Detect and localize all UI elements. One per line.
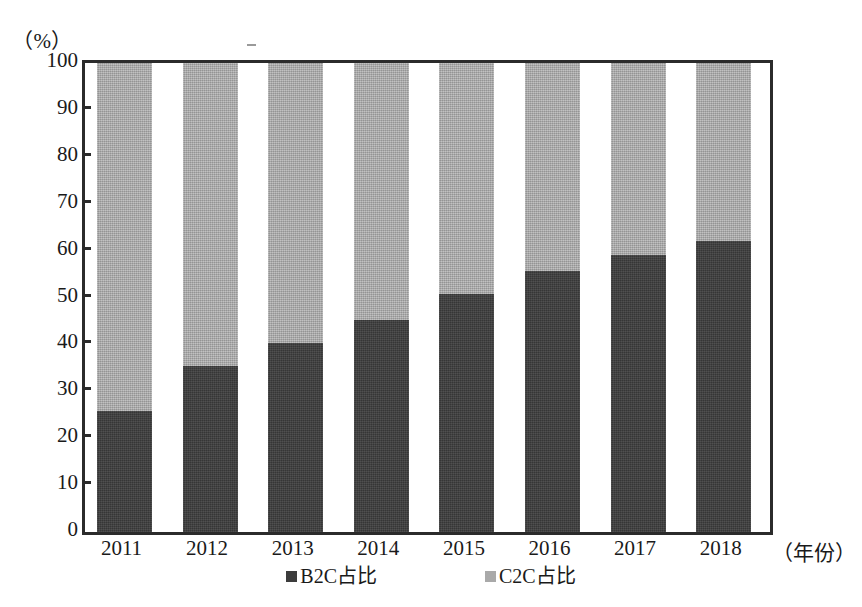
y-tick-mark — [82, 434, 91, 437]
y-tick-label: 50 — [16, 282, 78, 307]
y-tick-label: 60 — [16, 235, 78, 260]
bar-2017[interactable] — [611, 63, 666, 532]
y-axis-ticks: 0102030405060708090100 — [8, 0, 78, 607]
plot-area — [82, 60, 773, 535]
bar-segment-b2c[interactable] — [611, 255, 666, 532]
dark-square-swatch-icon — [286, 571, 297, 582]
legend-item-c2c[interactable]: C2C占比 — [485, 566, 576, 586]
x-axis-unit-label: （年份） — [772, 536, 856, 566]
bar-2013[interactable] — [268, 63, 323, 532]
y-tick-label: 80 — [16, 141, 78, 166]
light-square-swatch-icon — [485, 571, 496, 582]
bar-segment-c2c[interactable] — [696, 63, 751, 241]
y-tick-mark — [82, 247, 91, 250]
legend-label: B2C占比 — [300, 566, 377, 586]
y-tick-mark — [82, 200, 91, 203]
y-tick-mark — [82, 106, 91, 109]
bar-2015[interactable] — [439, 63, 494, 532]
bar-segment-b2c[interactable] — [183, 366, 238, 532]
y-tick-mark — [82, 294, 91, 297]
bar-segment-c2c[interactable] — [525, 63, 580, 271]
bar-segment-c2c[interactable] — [268, 63, 323, 343]
y-tick-label: 20 — [16, 423, 78, 448]
y-tick-label: 40 — [16, 329, 78, 354]
y-tick-label: 90 — [16, 94, 78, 119]
bar-2016[interactable] — [525, 63, 580, 532]
bar-2018[interactable] — [696, 63, 751, 532]
legend-item-b2c[interactable]: B2C占比 — [286, 566, 377, 586]
y-tick-label: 30 — [16, 376, 78, 401]
bar-2014[interactable] — [354, 63, 409, 532]
bar-segment-b2c[interactable] — [268, 343, 323, 532]
bar-2011[interactable] — [97, 63, 152, 532]
x-tick-label-2018: 2018 — [666, 536, 776, 561]
y-tick-mark — [82, 481, 91, 484]
y-tick-mark — [82, 153, 91, 156]
bar-2012[interactable] — [183, 63, 238, 532]
bar-segment-b2c[interactable] — [439, 294, 494, 532]
stacked-bar-chart: （%） 0102030405060708090100 2011201220132… — [0, 0, 862, 607]
stray-artifact-mark — [247, 44, 256, 46]
bar-segment-b2c[interactable] — [696, 241, 751, 532]
legend-label: C2C占比 — [499, 566, 576, 586]
y-tick-mark — [82, 340, 91, 343]
bar-segment-c2c[interactable] — [183, 63, 238, 366]
y-tick-label: 70 — [16, 188, 78, 213]
y-tick-label: 10 — [16, 470, 78, 495]
bar-segment-b2c[interactable] — [97, 411, 152, 532]
y-tick-mark — [82, 387, 91, 390]
chart-legend: B2C占比C2C占比 — [0, 566, 862, 586]
y-tick-label: 100 — [16, 48, 78, 73]
bar-segment-c2c[interactable] — [354, 63, 409, 320]
bar-segment-c2c[interactable] — [439, 63, 494, 294]
bar-segment-b2c[interactable] — [354, 320, 409, 532]
bar-segment-b2c[interactable] — [525, 271, 580, 532]
bar-segment-c2c[interactable] — [611, 63, 666, 255]
bar-segment-c2c[interactable] — [97, 63, 152, 411]
